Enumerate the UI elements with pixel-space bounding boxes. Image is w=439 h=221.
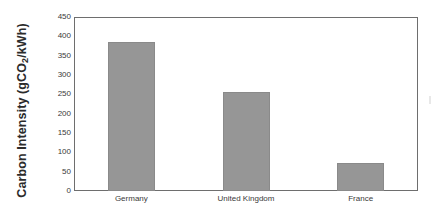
y-tick-label: 450 xyxy=(44,13,71,21)
bar-chart: Carbon Intensity (gCO2/kWh) 050100150200… xyxy=(0,0,439,221)
bar xyxy=(108,42,155,191)
bars-layer xyxy=(74,17,418,191)
scan-artifact xyxy=(429,96,431,104)
category-label: Germany xyxy=(74,194,189,203)
y-axis-title-subscript: 2 xyxy=(20,58,30,63)
y-axis-tick-labels: 050100150200250300350400450 xyxy=(44,10,71,198)
category-label: France xyxy=(303,194,418,203)
bar xyxy=(337,163,384,191)
category-label: United Kingdom xyxy=(189,194,304,203)
y-axis-title: Carbon Intensity (gCO2/kWh) xyxy=(0,0,44,221)
x-axis-category-labels: GermanyUnited KingdomFrance xyxy=(74,194,418,210)
y-tick-label: 300 xyxy=(44,71,71,79)
bar xyxy=(223,92,270,191)
y-tick-label: 100 xyxy=(44,148,71,156)
y-axis-title-text-after: /kWh) xyxy=(15,23,29,58)
y-tick-label: 0 xyxy=(44,187,71,195)
y-tick-label: 150 xyxy=(44,129,71,137)
y-tick-label: 350 xyxy=(44,52,71,60)
y-tick-label: 250 xyxy=(44,90,71,98)
y-tick-label: 50 xyxy=(44,168,71,176)
y-tick-label: 200 xyxy=(44,110,71,118)
y-axis-title-text-before: Carbon Intensity (gCO xyxy=(15,63,29,198)
y-tick-label: 400 xyxy=(44,32,71,40)
